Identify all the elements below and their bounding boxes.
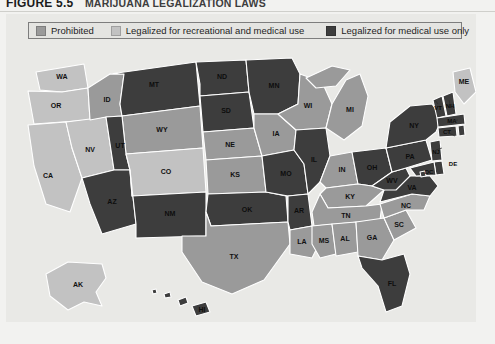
state-ok[interactable] [206,192,288,226]
state-co[interactable] [126,148,206,196]
state-ri[interactable] [458,125,465,136]
legend-label-prohibited: Prohibited [51,25,94,36]
state-or[interactable] [28,88,90,124]
state-al[interactable] [332,222,358,256]
legend-swatch-medical-only [326,26,336,36]
legend-swatch-prohibited [36,26,46,36]
us-map-container: WAORCANVIDMTWYUTAZCONMNDSDNEKSOKTXMNIAMO… [6,44,476,322]
state-me[interactable] [453,68,476,104]
legend-swatch-recreational-and-medical [111,26,121,36]
state-ak[interactable] [46,262,106,310]
figure-title: FIGURE 5.5 MARIJUANA LEGALIZATION LAWS [6,0,266,10]
state-mn[interactable] [246,58,300,114]
state-dc[interactable] [420,171,426,177]
legend-label-medical-only: Legalized for medical use only [341,25,469,36]
states-layer [28,58,476,316]
legend-item-medical-only: Legalized for medical use only [326,23,469,38]
state-hi[interactable] [152,289,210,316]
figure-number: FIGURE 5.5 [6,0,73,10]
state-ks[interactable] [206,156,266,194]
state-fl[interactable] [358,254,410,312]
state-label-de: DE [449,161,457,167]
state-ar[interactable] [288,194,312,230]
state-az[interactable] [82,170,136,234]
legend-label-recreational-and-medical: Legalized for recreational and medical u… [126,25,305,36]
title-divider [0,11,495,12]
state-id[interactable] [88,74,124,120]
map-legend: Prohibited Legalized for recreational an… [28,22,462,39]
figure-caption: MARIJUANA LEGALIZATION LAWS [85,0,266,9]
us-choropleth-map: WAORCANVIDMTWYUTAZCONMNDSDNEKSOKTXMNIAMO… [6,44,476,322]
state-ne[interactable] [203,128,262,160]
state-nj[interactable] [430,140,442,161]
state-nd[interactable] [196,60,249,96]
legend-item-recreational-and-medical: Legalized for recreational and medical u… [111,23,305,38]
legend-item-prohibited: Prohibited [36,23,94,38]
state-wa[interactable] [36,64,88,92]
figure-panel: Prohibited Legalized for recreational an… [6,14,476,322]
state-sd[interactable] [200,92,254,132]
